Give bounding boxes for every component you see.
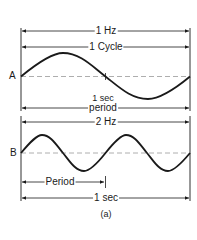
frequency-label-a: 1 Hz <box>95 26 118 36</box>
point-label-a: A <box>9 71 16 81</box>
frequency-label-b: 2 Hz <box>95 117 118 127</box>
period-label-b: Period <box>45 177 76 187</box>
figure-caption: (a) <box>100 209 113 219</box>
point-label-b: B <box>10 148 17 158</box>
time-label-b: 1 sec <box>93 193 119 203</box>
cycle-label-a: 1 Cycle <box>88 42 123 52</box>
period-label-a: period <box>88 103 118 113</box>
